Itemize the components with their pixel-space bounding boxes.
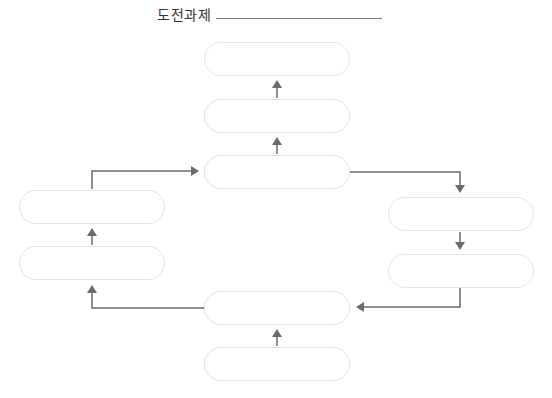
arrow-line-center-to-right xyxy=(350,172,460,186)
connector-arrows xyxy=(0,0,552,398)
arrowhead-up-icon xyxy=(272,329,282,337)
arrow-line-right-to-bottom xyxy=(364,288,460,307)
arrowhead-up-icon xyxy=(272,80,282,88)
arrowhead-down-icon xyxy=(455,185,465,193)
arrowhead-up-icon xyxy=(272,137,282,145)
arrowhead-right-icon xyxy=(191,166,199,176)
arrowhead-left-icon xyxy=(356,302,364,312)
arrow-line-left-to-center xyxy=(92,171,192,189)
arrowhead-down-icon xyxy=(455,242,465,250)
arrow-line-bottom-to-left xyxy=(92,292,204,308)
arrowhead-up-icon xyxy=(87,285,97,293)
arrowhead-up-icon xyxy=(87,228,97,236)
